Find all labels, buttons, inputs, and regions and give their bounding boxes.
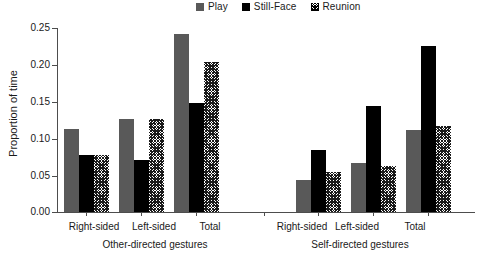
x-category-label-5: Total (385, 221, 445, 232)
y-tick-group-0: 0.25 (0, 23, 50, 33)
x-tick-mark-5 (373, 212, 374, 216)
bar-reunion-group-2 (204, 62, 219, 212)
x-tick-mark-4 (318, 212, 319, 216)
legend-item-still-face: Still-Face (242, 2, 297, 12)
x-tick-mark-6 (428, 212, 429, 216)
x-tick-mark-3 (264, 212, 265, 216)
bar-play-group-4 (351, 163, 366, 212)
bar-still-face-group-0 (79, 155, 94, 212)
square-filled-gray-icon (196, 3, 204, 11)
y-tick-label-2: 0.15 (31, 97, 50, 107)
bar-play-group-3 (296, 180, 311, 212)
bar-still-face-group-4 (366, 106, 381, 212)
y-tick-group-5: 0.00 (0, 207, 50, 217)
square-filled-black-icon (242, 3, 250, 11)
legend-label-still-face: Still-Face (254, 2, 297, 12)
bar-reunion-group-0 (94, 155, 109, 212)
legend-label-reunion: Reunion (323, 2, 361, 12)
x-tick-mark-2 (196, 212, 197, 216)
plot-area (57, 28, 475, 212)
y-axis-title: Proportion of time (8, 49, 19, 179)
x-group-label-0: Other-directed gestures (65, 239, 245, 250)
y-tick-label-0: 0.25 (31, 23, 50, 33)
legend-item-reunion: Reunion (311, 2, 361, 12)
y-tick-label-1: 0.20 (31, 60, 50, 70)
bar-play-group-2 (174, 34, 189, 212)
y-tick-label-3: 0.10 (31, 134, 50, 144)
x-tick-mark-1 (141, 212, 142, 216)
x-tick-mark-0 (86, 212, 87, 216)
bar-play-group-0 (64, 129, 79, 212)
legend-item-play: Play (196, 2, 228, 12)
x-group-label-1: Self-directed gestures (270, 239, 450, 250)
square-hatched-icon (311, 3, 319, 11)
bar-still-face-group-3 (311, 150, 326, 212)
bar-still-face-group-5 (421, 46, 436, 212)
y-tick-mark-5 (52, 212, 57, 213)
bar-reunion-group-3 (326, 172, 341, 212)
y-tick-label-4: 0.05 (31, 171, 50, 181)
bar-reunion-group-4 (381, 166, 396, 212)
legend-label-play: Play (208, 2, 228, 12)
x-category-label-2: Total (180, 221, 240, 232)
bar-reunion-group-5 (436, 126, 451, 212)
bar-still-face-group-1 (134, 160, 149, 212)
bar-play-group-1 (119, 119, 134, 212)
bar-still-face-group-2 (189, 103, 204, 212)
bar-play-group-5 (406, 130, 421, 212)
x-axis-line (57, 212, 475, 213)
y-tick-label-5: 0.00 (31, 207, 50, 217)
chart-legend: Play Still-Face Reunion (196, 2, 361, 12)
bar-reunion-group-1 (149, 119, 164, 212)
bar-chart: Play Still-Face Reunion 0.25 0.20 0.15 0… (0, 0, 481, 257)
